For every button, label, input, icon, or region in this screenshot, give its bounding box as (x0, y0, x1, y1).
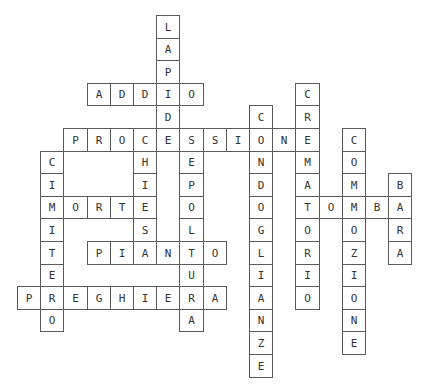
crossword-cell[interactable]: E (249, 354, 273, 378)
crossword-cell[interactable]: D (110, 83, 134, 106)
crossword-cell[interactable]: O (295, 218, 320, 242)
crossword-cell[interactable]: P (17, 286, 41, 310)
crossword-cell[interactable]: Z (249, 331, 273, 355)
crossword-cell[interactable]: E (133, 196, 157, 219)
crossword-cell[interactable]: E (179, 151, 204, 174)
crossword-cell[interactable]: E (156, 286, 180, 310)
crossword-cell[interactable]: E (342, 331, 366, 355)
crossword-cell[interactable]: O (40, 309, 64, 332)
crossword-cell[interactable]: R (388, 218, 412, 242)
crossword-cell[interactable]: C (342, 128, 366, 152)
crossword-cell[interactable]: A (203, 286, 227, 310)
crossword-cell[interactable]: I (40, 173, 64, 197)
crossword-cell[interactable]: I (110, 241, 134, 265)
crossword-cell[interactable]: N (249, 151, 273, 174)
crossword-cell[interactable]: B (388, 173, 412, 197)
crossword-cell[interactable]: P (156, 60, 180, 84)
crossword-cell[interactable]: R (87, 196, 111, 219)
crossword-cell[interactable]: O (179, 196, 204, 219)
crossword-cell[interactable]: A (133, 241, 157, 265)
crossword-cell[interactable]: M (342, 196, 366, 219)
crossword-cell[interactable]: R (295, 105, 320, 129)
crossword-cell[interactable]: O (249, 196, 273, 219)
crossword-cell[interactable]: I (342, 264, 366, 287)
crossword-cell[interactable]: D (156, 105, 180, 129)
crossword-cell[interactable]: P (87, 241, 111, 265)
crossword-cell[interactable]: M (40, 196, 64, 219)
crossword-cell[interactable]: S (133, 218, 157, 242)
crossword-cell[interactable]: M (342, 173, 366, 197)
crossword-cell[interactable]: A (388, 241, 412, 265)
crossword-cell[interactable]: R (40, 286, 64, 310)
crossword-cell[interactable]: R (295, 241, 320, 265)
crossword-cell[interactable]: R (179, 286, 204, 310)
crossword-cell[interactable]: D (249, 173, 273, 197)
crossword-cell[interactable]: L (249, 241, 273, 265)
crossword-cell[interactable]: O (342, 218, 366, 242)
crossword-cell[interactable]: O (203, 241, 227, 265)
crossword-cell[interactable]: N (249, 309, 273, 332)
crossword-cell[interactable]: G (87, 286, 111, 310)
crossword-cell[interactable]: E (295, 128, 320, 152)
crossword-cell[interactable]: D (133, 83, 157, 106)
crossword-cell[interactable]: U (179, 264, 204, 287)
crossword-cell[interactable]: A (295, 173, 320, 197)
crossword-cell[interactable]: T (110, 196, 134, 219)
crossword-cell[interactable]: C (249, 105, 273, 129)
crossword-cell[interactable]: I (133, 286, 157, 310)
crossword-cell[interactable]: C (40, 151, 64, 174)
crossword-cell[interactable]: I (40, 218, 64, 242)
crossword-cell[interactable]: N (272, 128, 296, 152)
crossword-cell[interactable]: O (63, 196, 88, 219)
crossword-cell[interactable]: O (179, 83, 204, 106)
crossword-cell[interactable]: T (179, 241, 204, 265)
crossword-cell[interactable]: O (110, 128, 134, 152)
crossword-cell[interactable]: O (295, 286, 320, 310)
crossword-cell[interactable]: P (63, 128, 88, 152)
crossword-cell[interactable]: C (133, 128, 157, 152)
crossword-cell[interactable]: O (342, 151, 366, 174)
crossword-cell[interactable]: R (87, 128, 111, 152)
crossword-cell[interactable]: T (295, 196, 320, 219)
crossword-cell[interactable]: E (63, 286, 88, 310)
crossword-cell[interactable]: A (249, 286, 273, 310)
crossword-cell[interactable]: I (226, 128, 250, 152)
crossword-cell[interactable]: I (295, 264, 320, 287)
crossword-cell[interactable]: L (179, 218, 204, 242)
crossword-cell[interactable]: S (179, 128, 204, 152)
crossword-cell[interactable]: I (133, 173, 157, 197)
crossword-cell[interactable]: A (156, 38, 180, 61)
crossword-cell[interactable]: E (40, 264, 64, 287)
crossword-cell[interactable]: O (342, 286, 366, 310)
crossword-cell[interactable]: A (388, 196, 412, 219)
crossword-cell[interactable]: N (342, 309, 366, 332)
crossword-grid: LAPIDEADDOCREMATORIOCONDOGLIANZEPROCSSIN… (0, 0, 429, 391)
crossword-cell[interactable]: I (156, 83, 180, 106)
crossword-cell[interactable]: I (249, 264, 273, 287)
crossword-cell[interactable]: M (295, 151, 320, 174)
crossword-cell[interactable]: C (295, 83, 320, 106)
crossword-cell[interactable]: H (133, 151, 157, 174)
crossword-cell[interactable]: N (156, 241, 180, 265)
crossword-cell[interactable]: O (319, 196, 343, 219)
crossword-cell[interactable]: B (365, 196, 389, 219)
crossword-cell[interactable]: H (110, 286, 134, 310)
crossword-cell[interactable]: A (87, 83, 111, 106)
crossword-cell[interactable]: A (179, 309, 204, 332)
crossword-cell[interactable]: S (203, 128, 227, 152)
crossword-cell[interactable]: Z (342, 241, 366, 265)
crossword-cell[interactable]: T (40, 241, 64, 265)
crossword-cell[interactable]: E (156, 128, 180, 152)
crossword-cell[interactable]: L (156, 15, 180, 39)
crossword-cell[interactable]: G (249, 218, 273, 242)
crossword-cell[interactable]: P (179, 173, 204, 197)
crossword-cell[interactable]: O (249, 128, 273, 152)
